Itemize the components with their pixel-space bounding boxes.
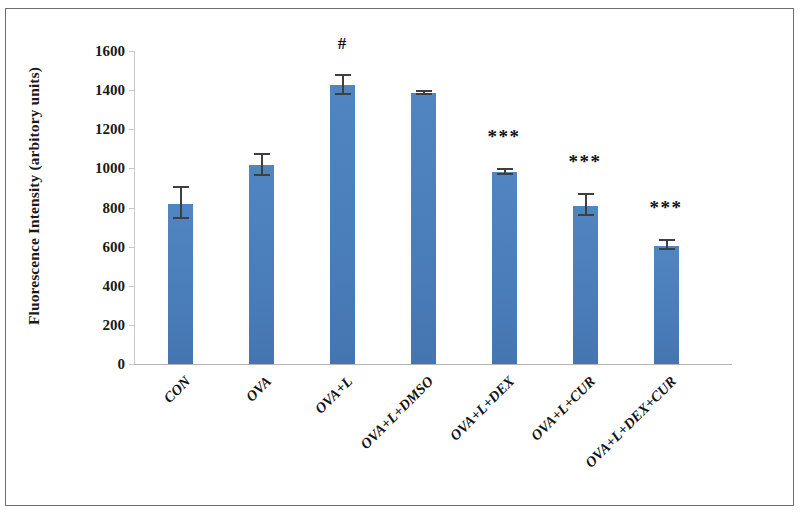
y-axis-tick-mark bbox=[129, 247, 134, 248]
x-axis-label: OVA+L+DEX bbox=[447, 373, 518, 444]
bar[interactable] bbox=[411, 93, 436, 364]
x-axis-label: OVA+L+DMSO bbox=[357, 373, 437, 453]
y-axis-line bbox=[134, 51, 135, 364]
significance-marker: *** bbox=[476, 126, 532, 148]
bar[interactable] bbox=[249, 165, 274, 364]
bar[interactable] bbox=[330, 85, 355, 364]
y-axis-tick-label: 1600 bbox=[95, 43, 125, 60]
error-bar-cap-bottom bbox=[173, 217, 189, 219]
y-axis-tick-mark bbox=[129, 51, 134, 52]
y-axis-tick-label: 0 bbox=[118, 356, 126, 373]
error-bar-cap-top bbox=[335, 74, 351, 76]
error-bar-cap-bottom bbox=[578, 214, 594, 216]
error-bar-cap-bottom bbox=[254, 174, 270, 176]
error-bar-cap-top bbox=[173, 186, 189, 188]
significance-marker: *** bbox=[557, 151, 613, 173]
y-axis-tick-label: 1000 bbox=[95, 160, 125, 177]
bar[interactable] bbox=[654, 246, 679, 364]
y-axis-tick-label: 400 bbox=[103, 277, 126, 294]
y-axis-tick-label: 600 bbox=[103, 238, 126, 255]
y-axis-tick-label: 200 bbox=[103, 316, 126, 333]
significance-marker: # bbox=[314, 34, 370, 54]
error-bar bbox=[585, 195, 587, 215]
y-axis-tick-mark bbox=[129, 208, 134, 209]
y-axis-tick-label: 800 bbox=[103, 199, 126, 216]
y-axis-tick-mark bbox=[129, 90, 134, 91]
error-bar bbox=[180, 188, 182, 219]
plot-area: 02004006008001000120014001600 #*********… bbox=[134, 43, 732, 390]
bar[interactable] bbox=[168, 204, 193, 364]
y-axis-tick-label: 1400 bbox=[95, 82, 125, 99]
y-axis-tick-mark bbox=[129, 325, 134, 326]
error-bar-cap-top bbox=[254, 153, 270, 155]
significance-marker: *** bbox=[638, 197, 694, 219]
error-bar-cap-bottom bbox=[659, 248, 675, 250]
error-bar-cap-top bbox=[578, 193, 594, 195]
y-axis-tick-mark bbox=[129, 129, 134, 130]
y-axis-tick-mark bbox=[129, 286, 134, 287]
x-axis-label: OVA+L bbox=[312, 373, 356, 417]
error-bar-cap-top bbox=[416, 90, 432, 92]
x-axis-label: OVA bbox=[243, 373, 275, 405]
y-axis-tick-mark bbox=[129, 168, 134, 169]
x-axis-line bbox=[134, 364, 732, 365]
error-bar-cap-top bbox=[497, 168, 513, 170]
x-axis-label: OVA+L+DEX+CUR bbox=[582, 373, 680, 471]
figure-frame: Fluorescence Intensity (arbitory units) … bbox=[5, 8, 794, 506]
y-axis-tick-mark bbox=[129, 364, 134, 365]
error-bar-cap-bottom bbox=[416, 93, 432, 95]
error-bar-cap-bottom bbox=[497, 173, 513, 175]
bar[interactable] bbox=[573, 206, 598, 364]
error-bar-cap-bottom bbox=[335, 93, 351, 95]
x-axis-label: OVA+L+CUR bbox=[528, 373, 599, 444]
x-axis-label: CON bbox=[160, 373, 194, 407]
bar[interactable] bbox=[492, 172, 517, 364]
y-axis-tick-label: 1200 bbox=[95, 121, 125, 138]
error-bar bbox=[261, 155, 263, 177]
error-bar-cap-top bbox=[659, 239, 675, 241]
y-axis-title: Fluorescence Intensity (arbitory units) bbox=[25, 46, 43, 346]
